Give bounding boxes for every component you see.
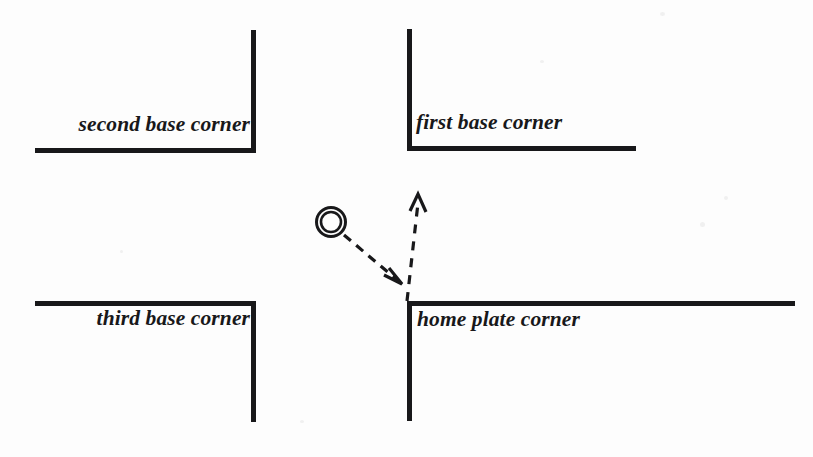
label-home-plate-corner: home plate corner — [417, 309, 580, 331]
outgoing-throw-arrow-shaft — [407, 203, 418, 301]
diagram-canvas: second base corner first base corner thi… — [0, 0, 813, 457]
outgoing-throw-arrow — [407, 194, 426, 301]
label-second-base-corner: second base corner — [30, 114, 250, 136]
ball-marker-inner-ring — [321, 212, 341, 232]
ball-marker — [317, 208, 346, 237]
label-first-base-corner: first base corner — [416, 112, 562, 134]
diagram-svg — [0, 0, 813, 457]
label-third-base-corner: third base corner — [34, 308, 250, 330]
incoming-throw-arrow — [344, 235, 402, 284]
incoming-throw-arrow-shaft — [344, 235, 396, 279]
